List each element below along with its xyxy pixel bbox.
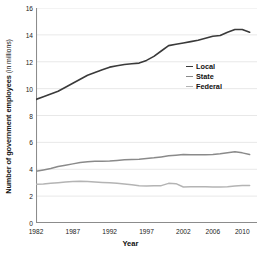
y-tick-label: 14 [17,31,33,38]
legend-item-federal[interactable]: Federal [186,82,222,91]
legend-swatch-icon [186,66,193,67]
y-tick-label: 12 [17,58,33,65]
y-axis-title-unit: (in millions) [5,39,12,73]
legend-swatch-icon [186,76,193,77]
y-tick-label: 0 [17,220,33,227]
series-line-federal [36,181,250,187]
x-axis-title: Year [0,239,261,248]
series-line-state [36,152,250,171]
plot-svg [36,8,257,223]
legend-swatch-icon [186,86,193,87]
y-axis-tick-labels: 0246810121416 [16,0,33,232]
chart-legend: LocalStateFederal [186,62,222,91]
y-axis-title: Number of government employees (in milli… [0,0,17,232]
x-tick-label: 1997 [139,228,154,235]
x-tick-label: 1992 [102,228,117,235]
legend-item-state[interactable]: State [186,72,222,81]
legend-label: Local [196,62,215,71]
x-tick-label: 2002 [176,228,191,235]
y-tick-label: 16 [17,5,33,12]
y-tick-label: 6 [17,139,33,146]
y-tick-label: 4 [17,166,33,173]
x-tick-label: 1987 [65,228,80,235]
y-tick-label: 2 [17,193,33,200]
y-axis-title-text: Number of government employees [4,75,13,194]
x-tick-label: 2010 [235,228,250,235]
line-chart: Number of government employees (in milli… [0,0,261,258]
legend-label: Federal [196,82,222,91]
legend-label: State [196,72,214,81]
y-tick-label: 8 [17,112,33,119]
legend-item-local[interactable]: Local [186,62,222,71]
y-tick-label: 10 [17,85,33,92]
x-tick-label: 1982 [29,228,44,235]
plot-area [36,8,257,223]
x-tick-label: 2006 [205,228,220,235]
